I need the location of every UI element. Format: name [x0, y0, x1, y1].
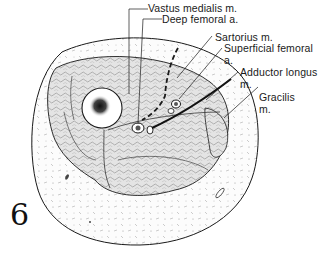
label-adductor-longus: Adductor longus m.: [240, 66, 317, 90]
label-deep-femoral-artery: Deep femoral a.: [162, 13, 238, 25]
label-superficial-femoral-artery: Superficial femoral a.: [224, 42, 313, 66]
figure-number: 6: [10, 198, 29, 232]
label-gracilis: Gracilis m.: [259, 91, 295, 115]
label-text-line2: m.: [259, 103, 295, 115]
label-text: Superficial femoral: [224, 42, 313, 54]
label-text: Deep femoral a.: [162, 13, 238, 25]
label-text: Adductor longus: [240, 66, 317, 78]
thigh-cross-section-figure: Vastus medialis m. Deep femoral a. Sarto…: [0, 0, 334, 263]
anatomy-illustration: [0, 0, 334, 263]
label-text-line2: a.: [224, 54, 313, 66]
label-text: Gracilis: [259, 91, 295, 103]
label-text-line2: m.: [240, 78, 317, 90]
bone-marrow: [89, 95, 111, 117]
